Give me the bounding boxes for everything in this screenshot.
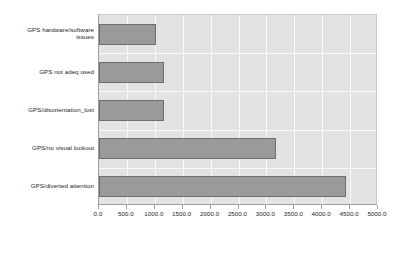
category-label-line: GPS/no visual lookout — [2, 144, 94, 152]
bar-row — [99, 15, 376, 53]
x-axis-tick-mark — [293, 205, 294, 209]
x-axis-tick-label: 4500.0 — [339, 210, 358, 218]
bar — [99, 176, 346, 197]
bar — [99, 24, 156, 45]
category-label-gps-disorientation-lost: GPS/disorientation_lost — [2, 106, 94, 114]
x-axis-tick-mark — [321, 205, 322, 209]
x-axis-tick-label: 2000.0 — [200, 210, 219, 218]
x-axis-tick-label: 5000.0 — [367, 210, 386, 218]
x-axis-tick-mark — [126, 205, 127, 209]
category-label-line: GPS/disorientation_lost — [2, 106, 94, 114]
bar — [99, 138, 276, 159]
x-axis-tick-label: 4000.0 — [312, 210, 331, 218]
bar-chart: GPS hardware/softwareissues GPS not adeq… — [0, 0, 402, 253]
category-label-gps-hardware-software-issues: GPS hardware/softwareissues — [2, 26, 94, 41]
x-axis-tick-label: 3000.0 — [256, 210, 275, 218]
x-axis-tick-mark — [182, 205, 183, 209]
x-axis-tick-label: 500.0 — [118, 210, 134, 218]
bar-row — [99, 53, 376, 91]
bar-row — [99, 130, 376, 168]
x-axis-tick-mark — [238, 205, 239, 209]
x-axis-tick-label: 3500.0 — [284, 210, 303, 218]
x-axis-tick-label: 1500.0 — [172, 210, 191, 218]
x-axis-tick-mark — [377, 205, 378, 209]
plot-area — [98, 14, 377, 205]
x-axis-tick-mark — [349, 205, 350, 209]
category-label-line: GPS/diverted attention — [2, 182, 94, 190]
x-axis-tick-mark — [210, 205, 211, 209]
category-label-line: GPS hardware/software — [2, 26, 94, 34]
x-axis-tick-label: 2500.0 — [228, 210, 247, 218]
x-axis-tick-mark — [265, 205, 266, 209]
gridline-vertical — [378, 15, 379, 204]
category-label-gps-diverted-attention: GPS/diverted attention — [2, 182, 94, 190]
category-label-gps-no-visual-lookout: GPS/no visual lookout — [2, 144, 94, 152]
x-axis-tick-mark — [98, 205, 99, 209]
bar-row — [99, 168, 376, 206]
bar — [99, 62, 164, 83]
category-label-gps-not-adeq-used: GPS not adeq used — [2, 68, 94, 76]
bar-row — [99, 91, 376, 129]
x-axis-tick-label: 1000.0 — [144, 210, 163, 218]
category-label-line: issues — [2, 33, 94, 41]
x-axis-tick-mark — [154, 205, 155, 209]
category-label-line: GPS not adeq used — [2, 68, 94, 76]
bar — [99, 100, 164, 121]
x-axis-tick-label: 0.0 — [94, 210, 103, 218]
